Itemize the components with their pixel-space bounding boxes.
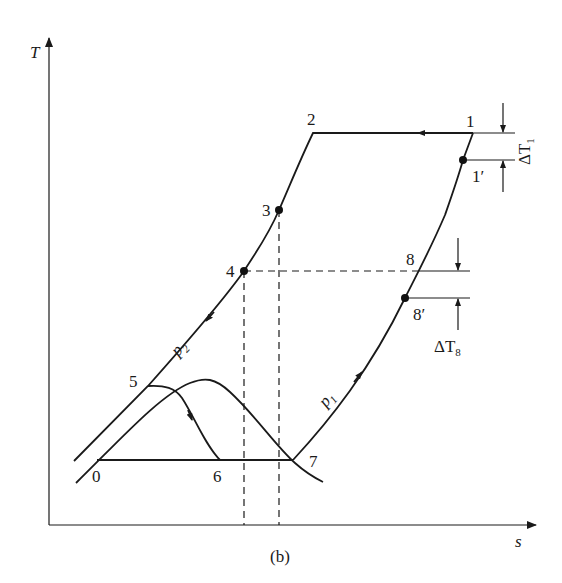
throttle-curve-5-6	[148, 386, 220, 460]
delta-t1-label: ΔT1	[515, 138, 536, 165]
point-2-label: 2	[307, 110, 316, 129]
point-3-dot	[275, 206, 283, 214]
point-1-label: 1	[466, 112, 475, 131]
isobar-p2-line	[74, 133, 473, 461]
figure-caption: (b)	[270, 547, 290, 566]
point-4-dot	[240, 267, 248, 275]
x-axis-label: s	[515, 532, 522, 551]
point-8-label: 8	[406, 250, 415, 269]
point-1prime-dot	[459, 156, 467, 164]
isobar-p1-line	[293, 133, 473, 460]
delta-t8-dimension: ΔT8	[405, 238, 470, 358]
point-1prime-label: 1′	[472, 167, 484, 186]
delta-t8-label: ΔT8	[434, 337, 461, 358]
point-6-label: 6	[213, 467, 222, 486]
point-4-label: 4	[226, 262, 235, 281]
point-8prime-label: 8′	[413, 305, 425, 324]
point-5-label: 5	[129, 372, 138, 391]
point-7-label: 7	[309, 452, 318, 471]
y-axis-label: T	[30, 43, 41, 62]
point-0-label: 0	[92, 467, 101, 486]
point-3-label: 3	[262, 201, 271, 220]
point-8prime-dot	[401, 294, 409, 302]
axes: T s	[30, 38, 536, 551]
ts-diagram: T s ΔT1 ΔT8 1 1′ 2	[0, 0, 562, 583]
